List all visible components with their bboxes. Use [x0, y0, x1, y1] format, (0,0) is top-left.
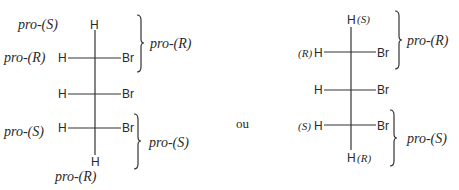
right-upper-brace-label: pro-(R) — [406, 33, 449, 49]
left-lower-brace — [134, 114, 141, 169]
right-row1-br: Br — [377, 46, 389, 60]
right-fischer-projection: H (S) (R) H Br H Br (S) H Br H (R) pro-(… — [298, 11, 449, 166]
right-row1-h: H — [314, 46, 323, 60]
right-row3-h: H — [314, 119, 323, 133]
left-upper-brace-label: pro-(R) — [149, 36, 192, 52]
left-row1-br: Br — [122, 51, 134, 65]
right-upper-brace — [395, 11, 402, 69]
left-row2-h: H — [58, 87, 67, 101]
left-row1-pro-label: pro-(R) — [3, 50, 46, 66]
left-bottom-pro-label: pro-(R) — [54, 169, 97, 185]
right-lower-brace-label: pro-(S) — [406, 131, 447, 147]
left-row3-pro-label: pro-(S) — [3, 124, 44, 140]
right-row3-br: Br — [377, 119, 389, 133]
right-row1-label: (R) — [298, 47, 312, 60]
left-top-pro-label: pro-(S) — [17, 17, 58, 33]
right-top-atom: H — [347, 13, 356, 27]
right-top-label: (S) — [357, 13, 370, 26]
left-upper-brace — [137, 15, 144, 72]
right-row2-br: Br — [377, 83, 389, 97]
right-row3-label: (S) — [298, 120, 311, 133]
right-bottom-label: (R) — [357, 152, 371, 165]
left-bottom-atom: H — [91, 155, 100, 169]
left-lower-brace-label: pro-(S) — [148, 135, 189, 151]
left-row2-br: Br — [122, 87, 134, 101]
left-row3-h: H — [58, 121, 67, 135]
fischer-projections-diagram: pro-(S) H pro-(R) H Br H Br pro-(S) H Br… — [0, 0, 459, 190]
separator-ou: ou — [236, 116, 250, 131]
left-fischer-projection: pro-(S) H pro-(R) H Br H Br pro-(S) H Br… — [3, 15, 192, 185]
right-row2-h: H — [314, 83, 323, 97]
right-bottom-atom: H — [347, 151, 356, 165]
right-lower-brace — [390, 110, 397, 166]
left-row1-h: H — [58, 51, 67, 65]
left-top-atom: H — [90, 18, 99, 32]
left-row3-br: Br — [122, 121, 134, 135]
